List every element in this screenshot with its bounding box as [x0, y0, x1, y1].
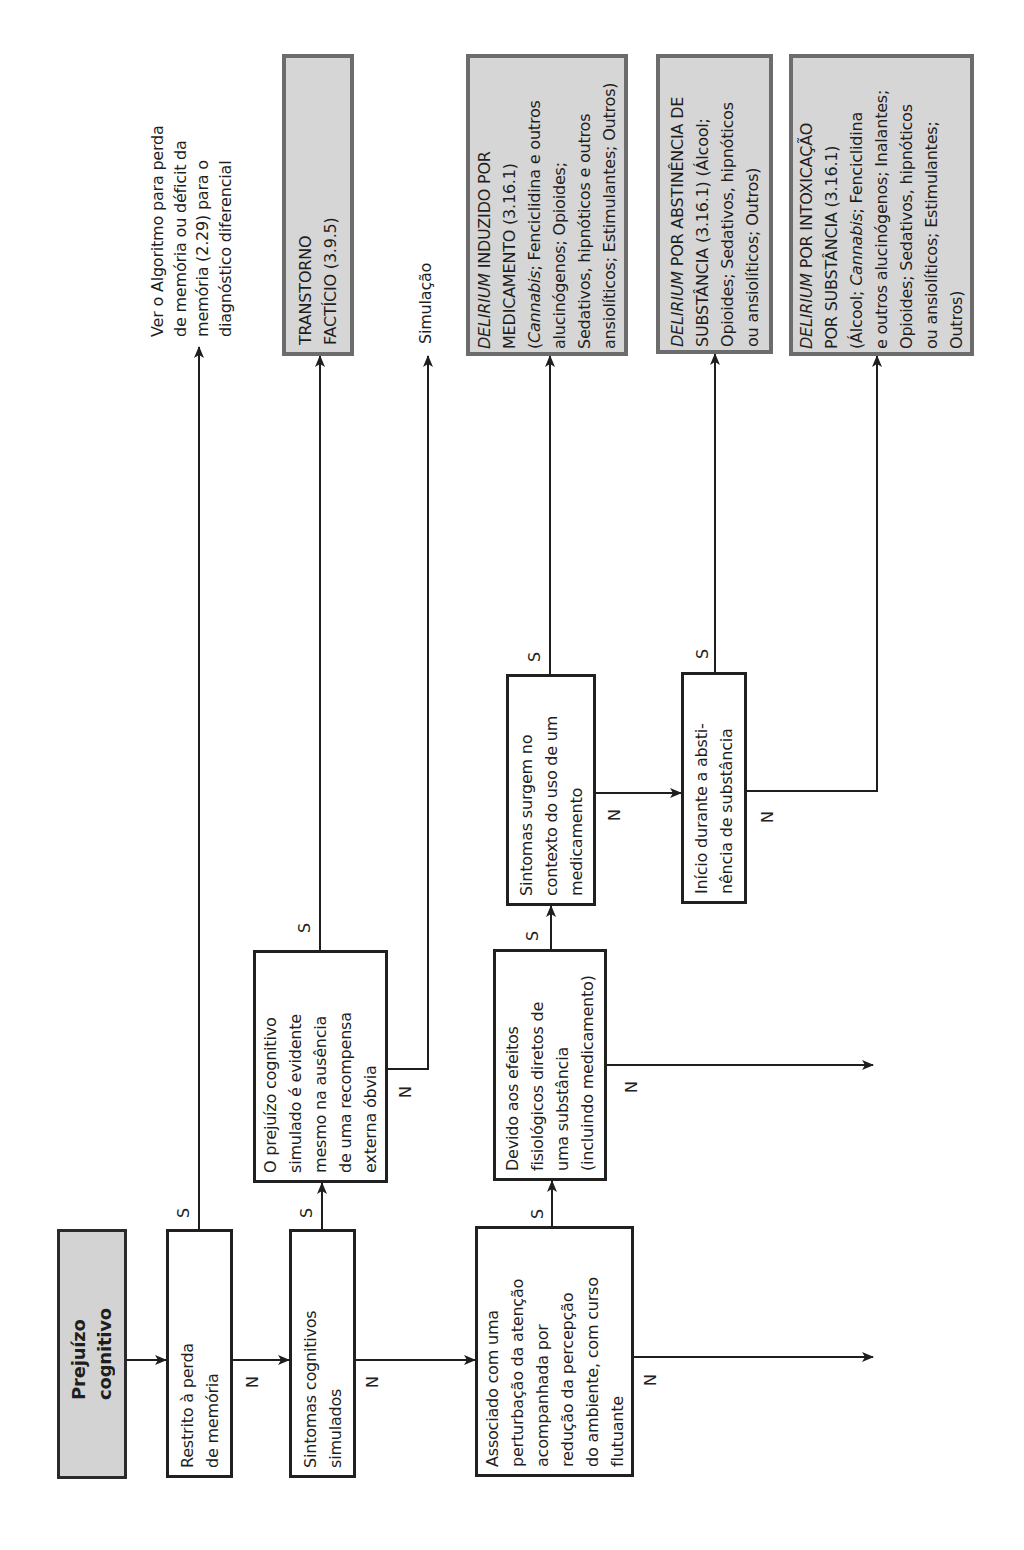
decision-restrito-perda-memoria: Restrito à perda de memória [166, 1229, 233, 1478]
branch-label-yes: S [295, 918, 315, 938]
decision-uso-medicamento: Sintomas surgem no contexto do uso de um… [506, 674, 596, 906]
outcome-transtorno-facticio: TRANSTORNO FACTÍCIO (3.9.5) [282, 54, 354, 356]
outcome-label-italic: DELIRIUM [668, 271, 687, 347]
branch-label-no: N [396, 1082, 416, 1102]
branch-label-no: N [758, 807, 778, 827]
outcome-delirium-abstinencia-substancia: DELIRIUM POR ABSTINÊNCIA DE SUBSTÂNCIA (… [656, 54, 773, 354]
flowchart-canvas: Prejuízo cognitivo Restrito à perda de m… [0, 0, 1024, 1550]
decision-label: O prejuízo cognitivo simulado é evidente… [258, 1012, 383, 1173]
branch-label-no: N [641, 1370, 661, 1390]
decision-label: Devido aos efeitos fisiológicos diretos … [500, 975, 600, 1171]
branch-label-no: N [243, 1372, 263, 1392]
branch-label-yes: S [297, 1203, 317, 1223]
outcome-delirium-induzido-medicamento: DELIRIUM INDUZIDO POR MEDICAMENTO (3.16.… [466, 54, 628, 356]
decision-label: Associado com uma perturbação da atenção… [480, 1277, 630, 1467]
decision-perturbacao-atencao: Associado com uma perturbação da atenção… [475, 1226, 634, 1477]
start-node-label: Prejuízo cognitivo [66, 1308, 118, 1400]
decision-label: Sintomas surgem no contexto do uso de um… [514, 716, 589, 896]
branch-label-yes: S [523, 926, 543, 946]
branch-label-no: N [622, 1077, 642, 1097]
branch-label-no: N [363, 1372, 383, 1392]
decision-label: Início durante a absti- nência de substâ… [689, 723, 739, 894]
decision-label: Restrito à perda de memória [175, 1343, 225, 1468]
outcome-label-italic: Cannabis [525, 271, 544, 343]
outcome-delirium-intoxicacao-substancia: DELIRIUM POR INTOXICAÇÃO POR SUBSTÂNCIA … [789, 54, 974, 356]
decision-sintomas-cognitivos-simulados: Sintomas cognitivos simulados [289, 1229, 356, 1478]
outcome-label-italic: Cannabis [847, 213, 866, 285]
outcome-ver-algoritmo-memoria: Ver o Algoritmo para perda de memória ou… [147, 45, 241, 339]
outcome-label-italic: DELIRIUM [475, 273, 494, 349]
branch-label-yes: S [525, 647, 545, 667]
outcome-simulacao: Simulação [412, 238, 439, 346]
branch-label-yes: S [693, 644, 713, 664]
decision-label: Sintomas cognitivos simulados [298, 1311, 348, 1468]
outcome-label: TRANSTORNO FACTÍCIO (3.9.5) [293, 217, 343, 345]
decision-prejuizo-simulado-evidente: O prejuízo cognitivo simulado é evidente… [253, 950, 388, 1183]
outcome-label: Simulação [413, 263, 438, 344]
branch-label-yes: S [174, 1203, 194, 1223]
outcome-label-italic: DELIRIUM [797, 273, 816, 349]
start-node-prejuizo-cognitivo: Prejuízo cognitivo [57, 1229, 127, 1479]
branch-label-yes: S [528, 1204, 548, 1224]
decision-efeitos-fisiologicos-substancia: Devido aos efeitos fisiológicos diretos … [493, 949, 607, 1181]
outcome-label: Ver o Algoritmo para perda de memória ou… [147, 125, 237, 337]
branch-label-no: N [605, 805, 625, 825]
decision-inicio-abstinencia: Início durante a absti- nência de substâ… [681, 672, 747, 904]
